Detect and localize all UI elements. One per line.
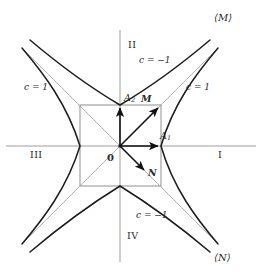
asymptote-m-label: ⟨M⟩: [214, 13, 232, 23]
c-label-left: c = 1: [24, 83, 48, 92]
vector-a2-label: A2: [124, 93, 135, 104]
quadrant-label-ii: II: [128, 40, 136, 50]
vector-a2-base: A: [124, 92, 131, 103]
hyperbola-diagram: ⟨M⟩ ⟨N⟩ II I III IV c = 1 c = 1 c = −1 c…: [0, 0, 262, 279]
quadrant-label-i: I: [218, 150, 222, 160]
c-label-bottom: c = −1: [136, 211, 168, 220]
vectors: [118, 108, 158, 170]
vector-a1-subscript: 1: [167, 134, 171, 142]
quadrant-label-iv: IV: [127, 231, 138, 241]
c-label-top: c = −1: [139, 56, 171, 65]
vector-m-arrow: [120, 108, 158, 146]
quadrant-label-iii: III: [30, 150, 42, 160]
c-label-right: c = 1: [186, 83, 210, 92]
vector-n-arrow: [120, 146, 144, 170]
vector-n-label: N: [148, 168, 157, 178]
vector-a1-base: A: [160, 130, 167, 141]
vector-m-label: M: [141, 94, 152, 104]
vector-a2-subscript: 2: [131, 96, 135, 104]
origin-label: 0: [107, 153, 114, 163]
vector-a1-label: A1: [160, 131, 171, 142]
origin-point: [118, 144, 121, 147]
asymptote-n-label: ⟨N⟩: [214, 253, 231, 263]
